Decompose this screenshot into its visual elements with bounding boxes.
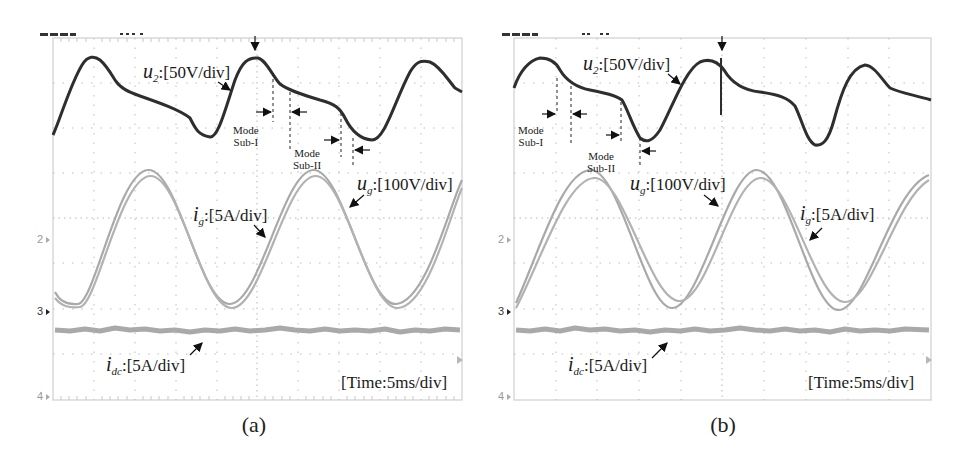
idc-label: idc:[5A/div] — [568, 353, 647, 377]
time-scale-label: [Time:5ms/div] — [808, 373, 914, 393]
channel-marker-2: 2 — [498, 233, 504, 245]
ig-label: ig:[5A/div] — [800, 202, 874, 226]
channel-marker-4: 4 — [498, 390, 504, 402]
idc-trace-b — [516, 328, 929, 332]
channel-marker-3: 3 — [498, 305, 504, 317]
mode-sub-1-label: ModeSub-I — [518, 124, 544, 148]
mode-sub-2-label: ModeSub-II — [587, 150, 615, 174]
u2-label: u2:[50V/div] — [583, 52, 670, 76]
ug-label: ug:[100V/div] — [630, 172, 726, 196]
panel-caption-b: (b) — [683, 412, 763, 438]
oscilloscope-panel-b: 2 3 4 u2:[50V/div] ModeSub-I ModeSub-II … — [0, 0, 966, 458]
